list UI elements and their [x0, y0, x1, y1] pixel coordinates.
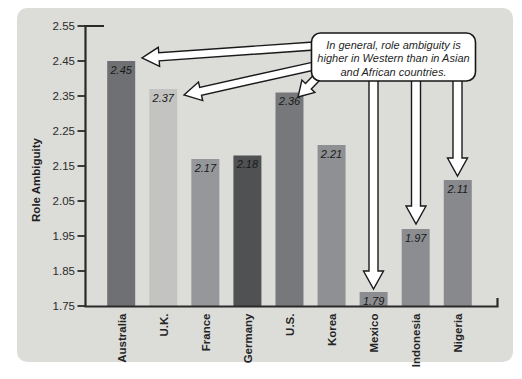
- bar-nigeria: [444, 180, 472, 306]
- bar-value-label: 2.37: [152, 92, 175, 104]
- x-tick-label: France: [200, 314, 212, 352]
- x-tick-label: Australia: [116, 313, 128, 363]
- callout-text-line: In general, role ambiguity is: [326, 39, 461, 51]
- y-tick-label: 2.55: [53, 20, 75, 32]
- bar-value-label: 2.21: [320, 148, 342, 160]
- y-tick-label: 2.45: [53, 55, 75, 67]
- bar-value-label: 1.97: [405, 232, 427, 244]
- y-tick-label: 1.75: [53, 300, 75, 312]
- bar-value-label: 2.18: [236, 158, 259, 170]
- figure-root: Role Ambiguity 2.552.452.352.252.152.051…: [0, 0, 522, 379]
- x-tick-label: Nigeria: [452, 313, 464, 353]
- role-ambiguity-bar-chart: Role Ambiguity 2.552.452.352.252.152.051…: [0, 0, 522, 379]
- bar-u-k: [149, 89, 177, 306]
- bar-value-label: 2.17: [194, 162, 217, 174]
- x-tick-label: Germany: [242, 313, 254, 363]
- bar-australia: [107, 61, 135, 306]
- x-tick-label: U.K.: [158, 314, 170, 337]
- x-tick-label: U.S.: [284, 314, 296, 336]
- bar-value-label: 2.11: [446, 183, 468, 195]
- y-axis-label: Role Ambiguity: [30, 137, 42, 222]
- y-tick-label: 2.15: [53, 160, 75, 172]
- x-tick-label: Indonesia: [410, 313, 422, 367]
- bar-value-label: 2.45: [109, 64, 132, 76]
- y-tick-label: 1.95: [53, 230, 75, 242]
- bar-korea: [318, 145, 346, 306]
- callout-text-line: and African countries.: [341, 66, 447, 78]
- y-tick-label: 1.85: [53, 265, 75, 277]
- x-tick-label: Mexico: [368, 314, 380, 353]
- bar-value-label: 1.79: [363, 295, 384, 307]
- bar-germany: [233, 156, 261, 307]
- bar-u-s: [275, 93, 303, 307]
- y-tick-label: 2.05: [53, 195, 75, 207]
- bar-france: [191, 159, 219, 306]
- y-tick-label: 2.35: [53, 90, 75, 102]
- x-tick-label: Korea: [326, 313, 338, 346]
- y-tick-label: 2.25: [53, 125, 75, 137]
- callout-text-line: higher in Western than in Asian: [317, 52, 469, 64]
